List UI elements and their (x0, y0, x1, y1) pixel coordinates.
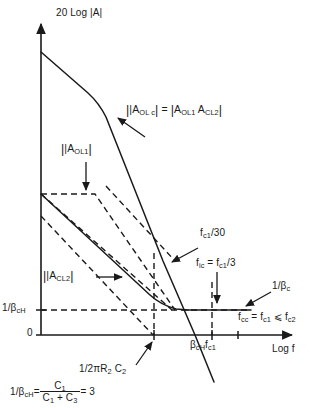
ytick-beta-prefix: 1/β (2, 302, 16, 313)
eq-den-sub1: 1 (50, 396, 54, 405)
y-axis-label: 20 Log |A| (56, 8, 102, 19)
fic-suffix: /3 (227, 257, 236, 268)
aolc-equals: = (158, 103, 170, 115)
eq-fraction: C1C1 + C3 (40, 381, 81, 404)
fc130-suffix: /30 (211, 227, 225, 238)
fic-sub1: ic (199, 261, 205, 270)
annotation-fcc: fcc = fc1 ⩽ fc2 (238, 312, 296, 323)
eq-result: = 3 (80, 387, 94, 398)
fcc-mid: = f (248, 311, 263, 322)
pointer-aolc (118, 118, 145, 137)
eq-lhs: 1/βcH (10, 387, 34, 398)
annotation-beta-ch-fc1: βcHfc1 (190, 340, 216, 351)
aolc-sub1: OL c (139, 108, 155, 117)
ytick-beta-sub: cH (16, 306, 25, 315)
bcf-prefix: β (190, 339, 196, 350)
r2c2-prefix: 1/2πR (79, 363, 108, 374)
fcc-sub3: c2 (288, 315, 296, 324)
eq-numerator: C1 (40, 381, 81, 393)
fic-mid: = f (204, 257, 219, 268)
fc130-sub: c1 (203, 231, 211, 240)
abs-bar-open2: | (171, 104, 174, 117)
eq-den-plus: + C (54, 392, 73, 403)
eq-lhs-prefix: 1/β (10, 386, 24, 397)
r2c2-sub1: 2 (108, 367, 112, 376)
eq-num-sub: 1 (62, 384, 66, 393)
x-axis-label-text: Log f (272, 343, 295, 354)
pointer-fc1-30 (172, 248, 198, 262)
dashed-aolc-extension (106, 186, 175, 261)
acl2-sub: CL2 (56, 274, 70, 283)
axes-group (36, 24, 292, 335)
obc-prefix: 1/β (272, 280, 286, 291)
aol1-bar-close: | (89, 143, 92, 156)
acl2-bar-close: | (70, 270, 73, 283)
ytick-zero-text: 0 (27, 327, 33, 338)
abs-bar-mid: | (155, 104, 158, 117)
fcc-mid2: ⩽ f (271, 311, 288, 322)
equation-beta-ch: 1/βcH = C1C1 + C3 = 3 (10, 381, 95, 404)
y-axis-label-text: 20 Log |A| (56, 7, 102, 18)
curve-label-one-over-beta-c: 1/βc (272, 281, 290, 292)
r2c2-mid: C (112, 363, 122, 374)
aol1-bar-open: | (61, 143, 64, 156)
curve-label-aolc: ||AOL c| = |AOL1 ACL2| (126, 103, 222, 116)
curve-aol1-solid (41, 194, 188, 310)
abs-bar-open: | (126, 104, 129, 117)
eq-den-sub2: 3 (73, 396, 77, 405)
aolc-sub2: OL1 (181, 108, 195, 117)
dashed-asymptotes-group (41, 186, 175, 335)
eq-lhs-sub: cH (24, 390, 33, 399)
pointer-arrows-group (86, 118, 271, 365)
curve-label-acl2: ||ACL2| (43, 269, 74, 282)
fcc-sub1: cc (241, 315, 249, 324)
bcf-sub1: cH (196, 343, 205, 352)
annotation-fc1-over-30: fc1/30 (200, 228, 225, 239)
dashed-aol1-asymptote (41, 194, 175, 310)
fic-sub2: c1 (219, 261, 227, 270)
x-axis-label: Log f (272, 344, 295, 355)
aolc-a3: A (195, 103, 205, 115)
eq-denominator: C1 + C3 (40, 392, 81, 404)
obc-sub: c (286, 284, 290, 293)
eq-den-c1: C (43, 392, 50, 403)
pointer-one-over-beta-c (246, 292, 271, 306)
curve-label-aol1: ||AOL1| (61, 142, 92, 155)
annotation-fic: fic = fc1/3 (196, 258, 236, 269)
pointer-r2c2 (136, 342, 152, 365)
aol1-sub: OL1 (74, 147, 88, 156)
fcc-sub2: c1 (263, 315, 271, 324)
bode-plot-figure: 20 Log |A| ||AOL c| = |AOL1 ACL2| ||AOL1… (0, 0, 329, 408)
aolc-prefix: |A (129, 103, 139, 115)
aolc-sub3: CL2 (205, 108, 219, 117)
aol1-prefix: |A (64, 142, 74, 154)
y-tick-label-beta-ch: 1/βcH (2, 303, 26, 314)
bcf-sub2: c1 (208, 343, 216, 352)
acl2-bar-open: | (43, 270, 46, 283)
r2c2-sub2: 2 (122, 367, 126, 376)
abs-bar-close: | (219, 104, 222, 117)
y-tick-label-zero: 0 (27, 328, 33, 339)
acl2-prefix: |A (46, 269, 56, 281)
annotation-r2c2: 1/2πR2 C2 (79, 364, 126, 375)
curves-group (41, 52, 251, 382)
eq-num-c: C (54, 380, 61, 391)
